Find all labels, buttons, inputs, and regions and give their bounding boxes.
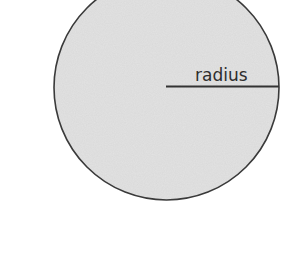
circle-radius-diagram: radius xyxy=(0,0,282,255)
radius-label: radius xyxy=(195,65,248,85)
circle-fill xyxy=(54,0,279,200)
